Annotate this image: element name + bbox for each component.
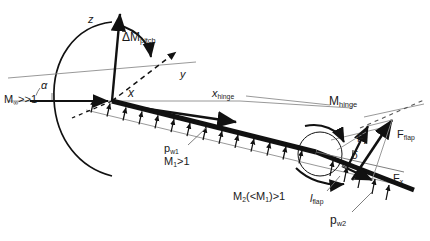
x-hinge-subscript: hinge (218, 93, 235, 100)
axis-label-z: z (88, 13, 94, 25)
l-flap-label: lflap (310, 192, 323, 205)
alpha-label: α (41, 79, 47, 91)
pressure-distribution-plate (91, 100, 302, 164)
freestream-roll-arc (54, 22, 112, 176)
flap-shock-dashed-line (360, 100, 424, 128)
f-flap-symbol: F (397, 128, 404, 140)
mach2-relation-tail: )>1 (269, 190, 285, 202)
force-resultant-flap (352, 120, 392, 180)
m-hinge-subscript: hinge (339, 100, 357, 109)
axis-label-y: y (180, 68, 186, 80)
delta-angle-label: δ (352, 150, 358, 161)
p-w2-leader (352, 192, 372, 212)
p-w1-subscript: w1 (170, 148, 179, 155)
p-w2-symbol: p (330, 213, 337, 227)
delta-m-pitch-subscript: pitch (140, 36, 156, 45)
x-hinge-label: xhinge (212, 87, 234, 100)
delta-m-pitch-main: ΔM (122, 30, 140, 44)
freestream-mach-symbol: M (4, 93, 13, 105)
f-flap-label: Fflap (397, 128, 415, 141)
freestream-mach-relation: >>1 (18, 93, 37, 105)
f-x-symbol: F (393, 172, 400, 184)
l-flap-subscript: flap (312, 198, 323, 205)
mach2-symbol: M (233, 190, 242, 202)
mach1-label: M1>1 (164, 155, 190, 168)
delta-m-pitch-label: ΔMpitch (122, 30, 156, 45)
m-hinge-symbol: M (329, 94, 339, 108)
m-hinge-label: Mhinge (329, 94, 357, 109)
f-z-label: Fz (357, 132, 367, 145)
axis-label-x: x (128, 86, 134, 100)
mach2-label: M2(<M1)>1 (233, 190, 285, 203)
axis-y-arrow (112, 52, 176, 101)
p-w2-subscript: w2 (337, 219, 347, 228)
diagram-vector-layer (0, 0, 430, 241)
p-w2-label: pw2 (330, 213, 346, 228)
f-x-subscript: x (400, 178, 403, 185)
f-flap-subscript: flap (404, 134, 415, 141)
f-x-label: Fx (393, 172, 403, 185)
f-z-symbol: F (357, 132, 364, 144)
mach1-symbol: M (164, 155, 173, 167)
mach1-relation: >1 (177, 155, 190, 167)
mach2-relation-head: (<M (246, 190, 265, 202)
p-w1-label: pw1 (164, 142, 179, 155)
figure-canvas: z y x ΔMpitch α M∞>>1 xhinge Mhinge pw1 … (0, 0, 430, 241)
axis-z-arrow (112, 14, 120, 101)
freestream-mach-label: M∞>>1 (4, 93, 37, 106)
f-z-subscript: z (364, 138, 367, 145)
